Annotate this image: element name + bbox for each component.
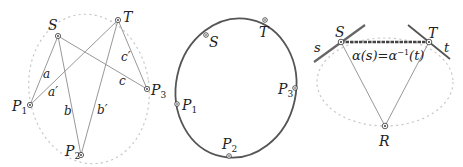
equation-label: α(s)=α−1(t) [352,48,424,63]
label-c: c [119,74,126,88]
label-T: T [428,25,439,41]
label-b-prime: b′ [97,103,108,117]
label-P3: P3 [277,81,293,99]
label-P2: P2 [221,136,237,154]
label-R: R [378,133,390,149]
point-P1 [175,102,180,107]
point-T [115,17,120,22]
label-tangent-s: s [314,40,321,55]
segment-b [58,36,81,155]
point-S [338,39,344,45]
panel-1: S T P1 P2 P3 a a′ b b′ c c′ [11,6,166,167]
label-a-prime: a′ [48,85,58,99]
label-P3: P3 [150,82,166,100]
segment-a-prime [30,20,118,105]
label-S: S [48,17,58,33]
segment-b-prime [81,20,118,155]
label-P2: P2 [64,143,80,161]
point-S [204,33,209,38]
point-R [382,123,388,129]
segment-c [58,36,147,89]
point-S [55,33,60,38]
label-P1: P1 [181,97,197,115]
point-P1 [27,102,32,107]
label-P1: P1 [11,98,27,116]
point-P3 [293,86,298,91]
panel-2: S T P1 P2 P3 [163,7,309,167]
dotted-ellipse [19,6,159,167]
point-P3 [144,86,149,91]
diagram-figure: S T P1 P2 P3 a a′ b b′ c c′ S T P1 P2 P3 [0,0,463,167]
label-T: T [123,9,134,25]
label-a: a [43,67,50,81]
label-S: S [335,24,345,40]
label-b: b [64,104,72,118]
label-c-prime: c′ [121,50,131,64]
panel-3: S T R s t α(s)=α−1(t) [314,24,453,149]
label-tangent-t: t [444,40,450,55]
point-P2 [227,154,232,159]
point-T [263,18,268,23]
label-S: S [209,34,219,50]
